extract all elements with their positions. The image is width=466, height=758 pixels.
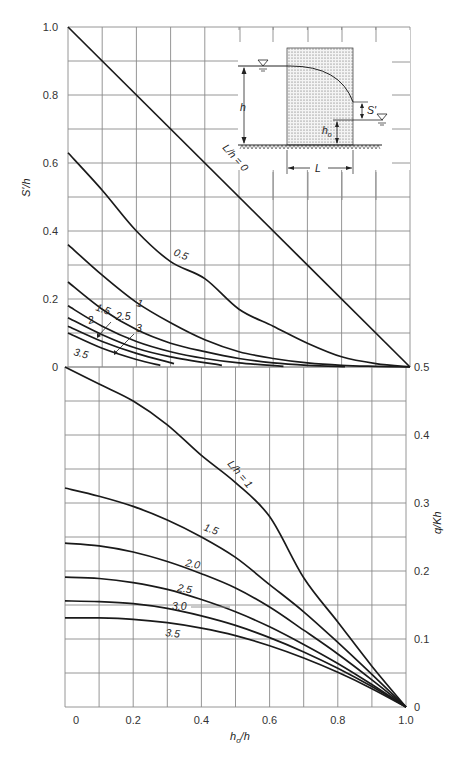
inset-s-label: S'	[367, 104, 377, 116]
y-tick-label: 0.6	[43, 157, 58, 169]
dam-block	[287, 48, 353, 145]
x-tick-label: 0.2	[126, 714, 141, 726]
q-tick-label: 0.5	[414, 361, 429, 373]
curve-label-b2-5: 2.5	[176, 581, 194, 596]
bottom-y-axis-title: q/Kh	[431, 511, 443, 534]
bottom-curve-labels: L/h = 1 1.5 2.0 2.5 3.0 3.5	[165, 458, 256, 640]
q-tick-label: 0.3	[414, 497, 429, 509]
curve-label-b1-5: 1.5	[202, 521, 220, 537]
q-tick-label: 0.2	[414, 565, 429, 577]
q-tick-label: 0	[414, 701, 420, 713]
inset-diagram: h S' ho L	[238, 27, 410, 200]
x-tick-label: 0	[73, 714, 79, 726]
q-tick-label: 0.4	[414, 429, 429, 441]
q-tick-label: 0.1	[414, 633, 429, 645]
curve-lh-15	[68, 282, 345, 367]
curve-label-3-5: 3.5	[72, 345, 89, 360]
curve-label-3: 3	[136, 322, 142, 334]
y-tick-label: 1.0	[43, 21, 58, 33]
curve-label-b3-5: 3.5	[165, 626, 181, 639]
y-tick-label: 0.4	[43, 225, 58, 237]
x-axis-title: ho/h	[230, 730, 250, 745]
x-tick-label: 0.6	[262, 714, 277, 726]
inset-h-label: h	[240, 101, 246, 113]
top-y-axis-title: S'/h	[20, 178, 32, 197]
inset-l-label: L	[315, 162, 321, 174]
curve-label-2-5: 2.5	[115, 310, 131, 322]
curve-label-2: 2	[85, 313, 95, 326]
curve-label-lh1: L/h = 1	[225, 458, 255, 491]
y-tick-label: 0.8	[43, 89, 58, 101]
seepage-chart: h S' ho L 00.20.40.60.81.000.10.20.30.40…	[0, 0, 466, 758]
curve-label-b3-0: 3.0	[172, 600, 187, 612]
y-tick-label: 0.2	[43, 293, 58, 305]
curve-label-0-5: 0.5	[172, 246, 190, 263]
x-tick-label: 0.8	[330, 714, 345, 726]
top-curve-labels: L/h = 0 0.5 1 1.5 2 2.5 3 3.5	[72, 141, 251, 360]
y-tick-label: 0	[52, 361, 58, 373]
x-tick-label: 1.0	[398, 714, 413, 726]
bottom-chart-grid	[65, 367, 406, 707]
x-tick-label: 0.4	[194, 714, 209, 726]
